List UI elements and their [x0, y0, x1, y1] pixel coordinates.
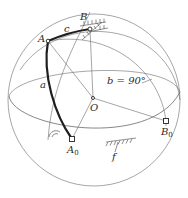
joint-B	[88, 27, 92, 31]
radius-OB	[90, 29, 93, 98]
label-A0: A0	[67, 145, 79, 157]
label-a: a	[40, 80, 46, 90]
radius-OB0	[93, 98, 166, 121]
ground-hatch-f	[106, 138, 136, 152]
label-f: f	[112, 152, 116, 162]
joint-O	[92, 97, 95, 100]
label-B0-sub: 0	[168, 131, 172, 139]
radius-OA	[48, 41, 93, 98]
label-A: A	[38, 34, 45, 44]
joint-A0	[70, 137, 75, 142]
joint-A	[46, 39, 50, 43]
label-O: O	[90, 103, 98, 113]
equator-back	[9, 70, 180, 96]
sphere-outline	[8, 14, 180, 186]
diagram-canvas	[0, 0, 188, 198]
label-B: B	[80, 12, 87, 22]
spherical-linkage-diagram: A B c a b = 90° O A0 B0 f	[0, 0, 188, 198]
label-B0: B0	[161, 127, 173, 139]
joint-B0	[164, 119, 169, 124]
angle-mark-inner	[52, 134, 58, 137]
label-c: c	[64, 24, 70, 34]
label-A0-sub: 0	[74, 149, 78, 157]
label-b: b = 90°	[107, 76, 146, 86]
